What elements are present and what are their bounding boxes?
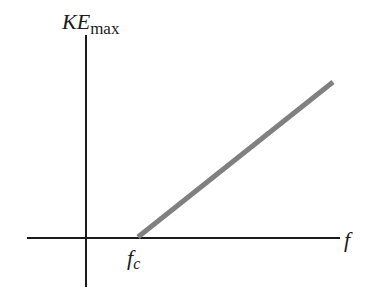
ke-vs-frequency-diagram: KEmax f fc [0, 0, 384, 294]
ke-line [138, 82, 333, 237]
cutoff-frequency-label: fc [127, 245, 140, 272]
y-axis-label: KEmax [61, 9, 120, 38]
x-axis-label: f [344, 227, 353, 252]
